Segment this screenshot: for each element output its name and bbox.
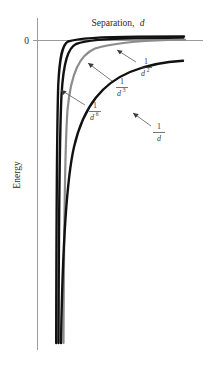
curve-label-inv-d2-numerator: 1	[144, 57, 148, 66]
curve-label-inv-d2-denominator: d	[141, 69, 146, 78]
curve-label-inv-d6-exponent: 6	[96, 111, 99, 117]
plot-canvas: Separation, d 0 Energy 1 d 2	[0, 0, 209, 365]
curve-label-inv-d-numerator: 1	[157, 122, 161, 131]
curve-label-inv-d2-exponent: 2	[147, 67, 150, 73]
chart-title-text: Separation,	[91, 18, 134, 28]
curve-inv-d3	[64, 40, 186, 343]
curve-label-inv-d3-numerator: 1	[120, 77, 124, 86]
curve-label-inv-d2: 1 d 2	[140, 57, 152, 78]
curve-label-inv-d: 1 d	[153, 122, 165, 143]
curve-label-inv-d6-numerator: 1	[93, 101, 97, 110]
arrowhead-inv-d2	[117, 50, 123, 55]
curve-label-inv-d3-denominator: d	[117, 89, 122, 98]
curve-inv-d	[61, 61, 183, 343]
chart-title: Separation, d	[91, 18, 144, 28]
curve-label-inv-d3-exponent: 3	[123, 87, 126, 93]
curve-label-inv-d6-denominator: d	[90, 113, 95, 122]
chart-title-variable: d	[140, 18, 145, 28]
energy-separation-chart: Separation, d 0 Energy 1 d 2	[0, 0, 209, 365]
y-axis-label: Energy	[12, 161, 22, 189]
curve-label-inv-d-denominator: d	[157, 134, 162, 143]
arrowhead-inv-d	[133, 113, 139, 118]
y-tick-label-zero: 0	[24, 36, 29, 46]
curve-label-inv-d3: 1 d 3	[116, 77, 128, 98]
arrowhead-inv-d3	[88, 63, 94, 68]
